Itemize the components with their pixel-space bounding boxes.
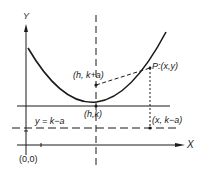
foot-label: (x, k−a) [152,116,182,125]
focus-label: (h, k+a) [73,71,104,80]
y-axis-arrow-icon [24,24,28,32]
vertex-label: (h,k) [84,110,102,119]
vertex-point [94,104,97,107]
focus-point [94,83,97,86]
foot-point [148,126,151,129]
point-p-label: P:(x,y) [152,62,178,71]
y-axis-label: Y [23,12,29,21]
x-axis-label: X [187,140,194,150]
parabola-diagram: Y X (0,0) (h, k+a) (h,k) P:(x,y) (x, k−a… [0,0,198,173]
directrix-label: y = k−a [35,117,65,126]
p-point [149,67,152,70]
focus-to-p-line [96,68,150,85]
diagram-canvas [0,0,198,173]
parabola-curve [28,32,166,102]
x-axis-arrow-icon [175,143,185,147]
origin-label: (0,0) [19,155,38,164]
